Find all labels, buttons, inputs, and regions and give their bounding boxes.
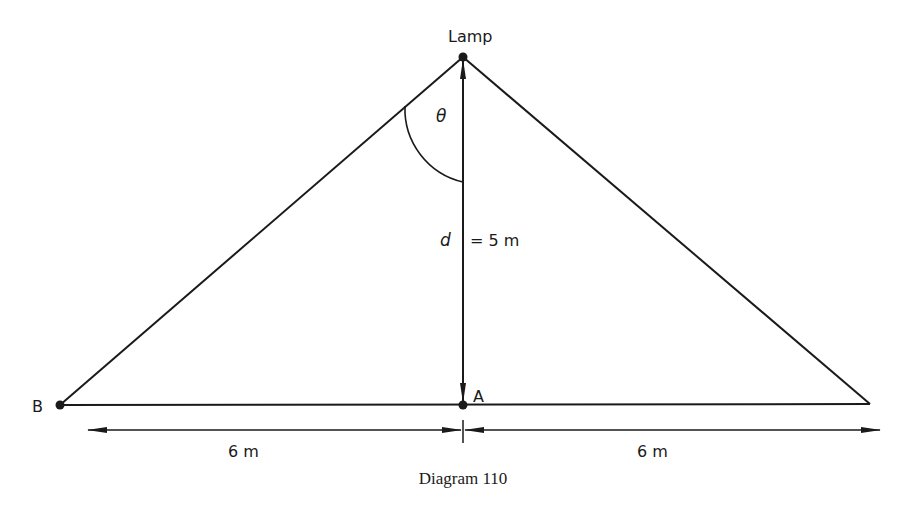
dimension-right-label: 6 m	[637, 442, 668, 461]
point-b	[56, 401, 65, 410]
diagram-caption: Diagram 110	[419, 469, 508, 488]
side-lamp-to-right	[463, 57, 870, 404]
theta-label: θ	[436, 106, 447, 126]
angle-arc-theta	[405, 106, 463, 182]
lamp-point	[459, 53, 468, 62]
point-a	[459, 401, 468, 410]
lamp-triangle-diagram: Lamp A B θ d = 5 m 6 m 6 m Diagram 110	[0, 0, 908, 511]
side-lamp-to-b	[60, 57, 463, 405]
d-label: d	[440, 230, 451, 250]
point-b-label: B	[32, 397, 43, 416]
dimension-left-label: 6 m	[228, 442, 259, 461]
lamp-label: Lamp	[448, 27, 492, 46]
point-a-label: A	[473, 387, 484, 406]
d-value-label: = 5 m	[470, 231, 519, 250]
